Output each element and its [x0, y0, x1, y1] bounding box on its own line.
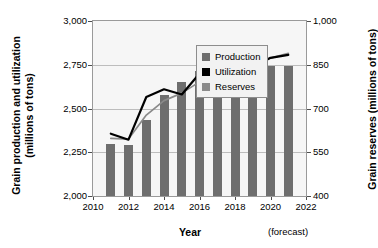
- legend: Production Utilization Reserves: [196, 45, 268, 98]
- legend-swatch-reserves: [202, 83, 210, 91]
- x-axis-forecast-note: (forecast): [268, 226, 348, 237]
- legend-swatch-production: [202, 53, 210, 61]
- legend-item-production: Production: [202, 49, 260, 64]
- x-tick-2014: 2014: [144, 201, 184, 212]
- right-tick-400: 400: [313, 190, 357, 201]
- right-tick-850: 850: [313, 59, 357, 70]
- left-axis-title: Grain production and utilization (millio…: [10, 21, 35, 211]
- right-tick-1000: 1,000: [313, 15, 357, 26]
- left-tick-2250: 2,250: [43, 146, 87, 157]
- right-axis-title: Grain reserves (millions of tons): [366, 14, 378, 204]
- plot-area: Production Utilization Reserves: [92, 20, 307, 197]
- left-axis-title-line1: Grain production and utilization: [10, 36, 22, 195]
- left-axis-title-line2: (millions of tons): [22, 73, 34, 158]
- x-tick-2020: 2020: [251, 201, 291, 212]
- x-tick-2010: 2010: [73, 201, 113, 212]
- left-tick-3000: 3,000: [43, 15, 87, 26]
- left-tick-2000: 2,000: [43, 190, 87, 201]
- x-axis-title: Year: [150, 226, 230, 238]
- legend-swatch-utilization: [202, 68, 210, 76]
- legend-label-production: Production: [215, 51, 260, 62]
- left-tick-2500: 2,500: [43, 103, 87, 114]
- left-tick-2750: 2,750: [43, 59, 87, 70]
- legend-item-utilization: Utilization: [202, 64, 260, 79]
- x-tick-2012: 2012: [109, 201, 149, 212]
- x-tick-2022: 2022: [286, 201, 326, 212]
- x-tick-2016: 2016: [180, 201, 220, 212]
- legend-label-utilization: Utilization: [215, 66, 256, 77]
- legend-item-reserves: Reserves: [202, 79, 260, 94]
- right-tick-550: 550: [313, 146, 357, 157]
- legend-label-reserves: Reserves: [215, 81, 255, 92]
- right-tick-700: 700: [313, 103, 357, 114]
- x-tick-2018: 2018: [215, 201, 255, 212]
